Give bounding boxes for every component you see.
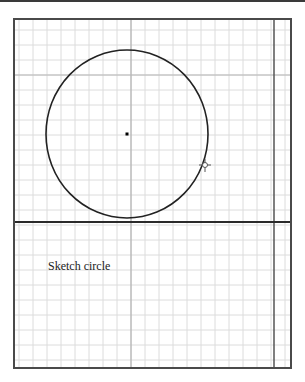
circle-center-point[interactable] xyxy=(126,133,129,136)
grid-layer xyxy=(0,0,305,382)
sketch-frame xyxy=(14,19,291,368)
sketch-caption: Sketch circle xyxy=(48,259,110,274)
sketch-canvas[interactable] xyxy=(0,0,305,382)
